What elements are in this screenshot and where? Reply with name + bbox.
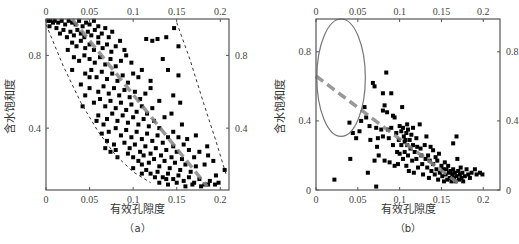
data-point xyxy=(418,122,422,126)
y-axis-title: 含水饱和度 xyxy=(3,79,17,134)
panel-caption: （a） xyxy=(124,223,150,234)
data-point xyxy=(414,136,418,140)
data-point xyxy=(431,148,435,152)
data-point xyxy=(157,99,161,103)
data-point xyxy=(83,93,87,97)
data-point xyxy=(364,115,368,119)
data-point xyxy=(100,70,104,74)
x-tick-label: 0.05 xyxy=(349,194,367,205)
data-point xyxy=(409,133,413,137)
data-point xyxy=(404,131,408,135)
data-point xyxy=(169,112,173,116)
data-point xyxy=(156,170,160,174)
data-point xyxy=(150,106,154,110)
data-point xyxy=(470,171,474,175)
data-point xyxy=(157,164,161,168)
data-point xyxy=(423,143,427,147)
panel-caption: （b） xyxy=(395,223,421,234)
data-point xyxy=(400,105,404,109)
data-point xyxy=(425,166,429,170)
data-point xyxy=(375,145,379,149)
data-point xyxy=(414,157,418,161)
data-point xyxy=(75,28,79,32)
data-point xyxy=(332,178,336,182)
data-point xyxy=(88,57,92,61)
data-point xyxy=(176,173,180,177)
x-tick-label-top: 0.2 xyxy=(214,6,227,17)
data-point xyxy=(82,53,86,57)
x-tick-label: 0 xyxy=(44,194,49,205)
data-point xyxy=(150,139,154,143)
x-tick-label-top: 0 xyxy=(44,6,49,17)
data-point xyxy=(176,73,180,77)
data-point xyxy=(96,41,100,45)
y-tick-label: 0.8 xyxy=(299,46,312,57)
data-point xyxy=(122,141,126,145)
data-point xyxy=(374,185,378,189)
data-point xyxy=(183,184,187,188)
data-point xyxy=(429,169,433,173)
data-point xyxy=(103,104,107,108)
data-point xyxy=(455,134,459,138)
x-tick-label: 0.2 xyxy=(477,194,490,205)
data-point xyxy=(214,173,218,177)
data-point xyxy=(114,126,118,130)
y-tick-label: 0.8 xyxy=(29,50,42,61)
data-point xyxy=(145,132,149,136)
data-point xyxy=(161,57,165,61)
data-point xyxy=(119,59,123,63)
x-tick-label: 0.15 xyxy=(168,194,186,205)
data-point xyxy=(161,141,165,145)
data-point xyxy=(110,30,114,34)
x-axis-title: 有效孔隙度 xyxy=(110,202,165,216)
data-point xyxy=(443,160,447,164)
data-point xyxy=(192,155,196,159)
data-point xyxy=(433,172,437,176)
data-point xyxy=(374,126,378,130)
data-point xyxy=(354,136,358,140)
data-point xyxy=(206,153,210,157)
data-point xyxy=(387,136,391,140)
data-point xyxy=(105,77,109,81)
data-point xyxy=(68,30,72,34)
plot-frame xyxy=(46,19,229,190)
data-point xyxy=(157,181,161,185)
data-point xyxy=(163,115,167,119)
data-point xyxy=(124,53,128,57)
data-point xyxy=(213,183,217,187)
data-point xyxy=(427,176,431,180)
data-point xyxy=(150,39,154,43)
data-point xyxy=(407,169,411,173)
data-point xyxy=(406,153,410,157)
data-point xyxy=(138,150,142,154)
data-point xyxy=(115,119,119,123)
data-point xyxy=(194,164,198,168)
data-point xyxy=(383,159,387,163)
data-point xyxy=(446,164,450,168)
data-point xyxy=(393,115,397,119)
data-point xyxy=(108,57,112,61)
data-point xyxy=(182,143,186,147)
data-point xyxy=(77,59,81,63)
data-point xyxy=(140,163,144,167)
data-point xyxy=(465,167,469,171)
data-point xyxy=(142,117,146,121)
data-point xyxy=(129,61,133,65)
data-point xyxy=(149,152,153,156)
data-point xyxy=(131,115,135,119)
data-point xyxy=(381,134,385,138)
data-point xyxy=(110,112,114,116)
data-point xyxy=(89,33,93,37)
data-point xyxy=(110,72,114,76)
data-point xyxy=(54,26,58,30)
data-point xyxy=(108,150,112,154)
data-point xyxy=(129,103,133,107)
data-point xyxy=(451,167,455,171)
data-point xyxy=(436,178,440,182)
data-point xyxy=(93,61,97,65)
data-point xyxy=(121,113,125,117)
data-point xyxy=(173,161,177,165)
data-point xyxy=(83,46,87,50)
data-point xyxy=(122,88,126,92)
figure: 000.050.050.10.10.150.150.20.20.40.40.80… xyxy=(0,0,519,244)
